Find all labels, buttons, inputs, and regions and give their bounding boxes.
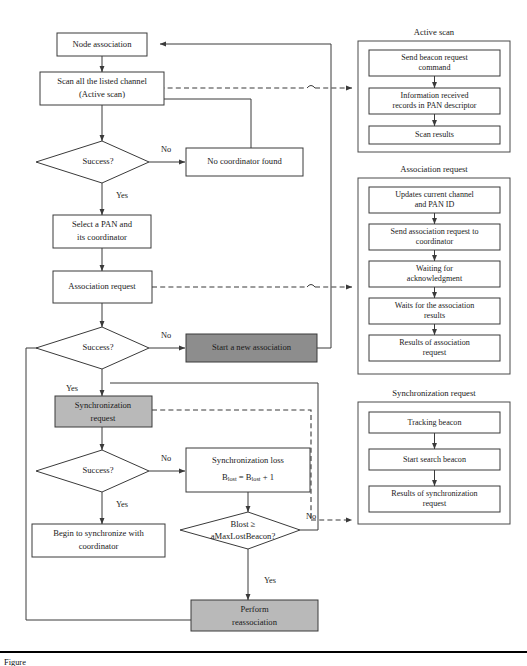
edge-label-success1-yes: Yes bbox=[116, 191, 128, 200]
sync-loss-eq: = B bbox=[237, 472, 252, 482]
wire-hop bbox=[307, 285, 315, 288]
panel-step-line2: command bbox=[419, 63, 451, 72]
perform-reassoc-line2: reassociation bbox=[232, 617, 278, 627]
panel-title-active-scan: Active scan bbox=[414, 27, 455, 37]
scan-channel-line2: (Active scan) bbox=[79, 89, 125, 99]
edge-label-success1-no: No bbox=[161, 145, 171, 154]
sync-request-line2: request bbox=[91, 413, 116, 423]
panel-step-line2: results bbox=[424, 311, 445, 320]
blost-check-line1: Blost ≥ bbox=[230, 519, 255, 529]
panel-step-line2: coordinator bbox=[416, 237, 454, 246]
panel-step-line2: request bbox=[423, 499, 447, 508]
panel-title-synchronization-request: Synchronization request bbox=[392, 388, 476, 398]
figure-root: Active scan Send beacon request command … bbox=[0, 0, 527, 666]
panel-step-line1: Waits for the association bbox=[395, 301, 475, 310]
panel-step-line2: and PAN ID bbox=[415, 200, 455, 209]
panel-step-line2: records in PAN descriptor bbox=[393, 101, 477, 110]
success-3-label: Success? bbox=[82, 465, 113, 475]
sync-loss-line1: Synchronization loss bbox=[212, 455, 285, 465]
select-pan-line1: Select a PAN and bbox=[72, 219, 133, 229]
edge-label-success2-no: No bbox=[161, 331, 171, 340]
panel-association-request: Association request Updates current chan… bbox=[358, 164, 510, 374]
panel-step-line1: Tracking beacon bbox=[408, 418, 462, 427]
edge-label-success2-yes: Yes bbox=[66, 384, 78, 393]
edge-label-success3-no: No bbox=[161, 454, 171, 463]
no-coordinator-label: No coordinator found bbox=[207, 156, 282, 166]
start-new-association-label: Start a new association bbox=[212, 342, 292, 352]
node-association-label: Node association bbox=[73, 39, 133, 49]
panel-step-line1: Send beacon request bbox=[401, 53, 468, 62]
panel-step-line1: Information received bbox=[400, 91, 468, 100]
flowchart-svg: Active scan Send beacon request command … bbox=[0, 0, 527, 666]
begin-sync-line2: coordinator bbox=[79, 541, 119, 551]
panel-active-scan: Active scan Send beacon request command … bbox=[358, 27, 510, 152]
scan-channel-line1: Scan all the listed channel bbox=[57, 76, 147, 86]
panel-title-association-request: Association request bbox=[400, 164, 468, 174]
select-pan-line2: its coordinator bbox=[77, 232, 127, 242]
panel-synchronization-request: Synchronization request Tracking beacon … bbox=[358, 388, 510, 524]
sync-loss-sub1: lost bbox=[228, 476, 237, 483]
figure-caption: Figure bbox=[4, 658, 26, 666]
panel-step-line1: Waiting for bbox=[416, 264, 453, 273]
edge-label-success3-yes: Yes bbox=[116, 500, 128, 509]
panel-step-line1: Results of synchronization bbox=[391, 489, 477, 498]
association-request-label: Association request bbox=[68, 281, 136, 291]
panel-step-line2: acknowledgment bbox=[407, 274, 463, 283]
panel-step-line2: request bbox=[423, 348, 447, 357]
edge-label-blost-no: No bbox=[306, 512, 316, 521]
success-1-label: Success? bbox=[82, 156, 113, 166]
sync-loss-plus1: + 1 bbox=[261, 472, 274, 482]
perform-reassoc-line1: Perform bbox=[240, 604, 268, 614]
sync-request-line1: Synchronization bbox=[75, 400, 132, 410]
panel-step-line1: Send association request to bbox=[391, 227, 479, 236]
blost-check-line2: aMaxLostBeacon? bbox=[211, 531, 276, 541]
sync-loss-sub2: lost bbox=[252, 476, 261, 483]
panel-step-line1: Start search beacon bbox=[403, 455, 466, 464]
edge-start-new-association-to-node-association bbox=[160, 44, 331, 348]
begin-sync-line1: Begin to synchronize with bbox=[53, 528, 144, 538]
panel-step-line1: Scan results bbox=[415, 130, 454, 139]
panel-step-line1: Updates current channel bbox=[395, 190, 474, 199]
panel-step-line1: Results of association bbox=[399, 338, 470, 347]
wire-hop bbox=[307, 86, 315, 89]
success-2-label: Success? bbox=[82, 342, 113, 352]
edge-label-blost-yes: Yes bbox=[264, 576, 276, 585]
